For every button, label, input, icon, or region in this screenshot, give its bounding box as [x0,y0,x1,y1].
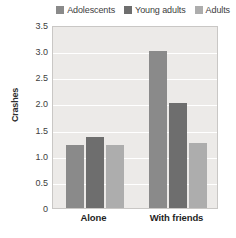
chart-legend: AdolescentsYoung adultsAdults [0,2,236,18]
grouped-bar-chart: AdolescentsYoung adultsAdults Crashes 00… [0,0,236,238]
bar [106,145,124,208]
legend-item: Young adults [124,5,186,15]
legend-item: Adults [195,5,230,15]
legend-label: Young adults [135,5,186,15]
y-axis-tick-label: 1.5 [20,127,48,136]
y-axis-tick-label: 3.0 [20,48,48,57]
legend-swatch-icon [56,6,64,14]
y-axis-tick-labels: 00.51.01.52.02.53.03.5 [20,26,48,209]
bar [189,143,207,208]
bar [169,103,187,208]
plot-area [52,26,218,209]
x-axis-tick-label: Alone [52,212,135,224]
y-axis-tick-label: 0 [20,205,48,214]
x-axis-tick-label: With friends [135,212,218,224]
y-axis-tick-label: 0.5 [20,179,48,188]
bar [86,137,104,208]
bar [149,51,167,208]
legend-label: Adults [206,5,230,15]
x-axis-tick-labels: AloneWith friends [52,212,218,228]
y-axis-tick-label: 1.0 [20,153,48,162]
y-axis-title: Crashes [10,79,20,131]
bars-layer [53,27,217,208]
legend-item: Adolescents [56,5,115,15]
legend-swatch-icon [124,6,132,14]
y-axis-tick-label: 3.5 [20,22,48,31]
bar [66,145,84,208]
legend-swatch-icon [195,6,203,14]
y-axis-tick-label: 2.5 [20,74,48,83]
legend-label: Adolescents [67,5,115,15]
y-axis-tick-label: 2.0 [20,100,48,109]
